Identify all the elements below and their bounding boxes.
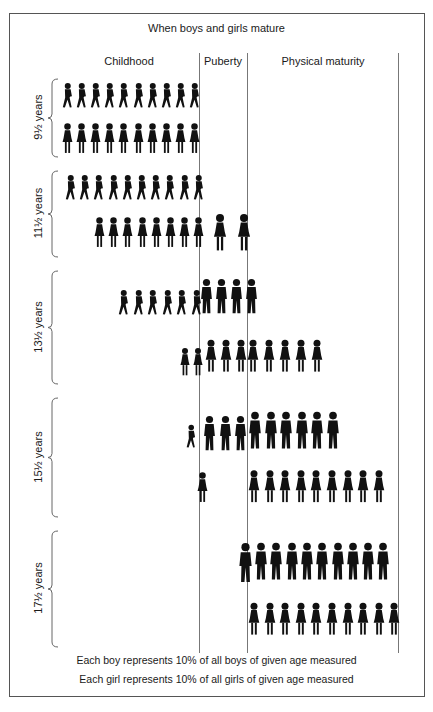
- girl-silhouette-icon: [164, 215, 177, 249]
- boy-silhouette-icon: [229, 273, 244, 319]
- girl-silhouette-icon: [204, 333, 218, 378]
- age-label: 9½ years: [32, 77, 44, 157]
- girl-silhouette-icon: [117, 121, 130, 155]
- girl-silhouette-icon: [247, 462, 261, 510]
- girl-silhouette-icon: [192, 345, 204, 378]
- girl-silhouette-icon: [179, 345, 191, 378]
- boy-silhouette-icon: [268, 537, 284, 585]
- chart-title: When boys and girls mature: [0, 22, 433, 34]
- boy-silhouette-icon: [149, 172, 162, 202]
- girl-silhouette-icon: [356, 462, 370, 510]
- girl-silhouette-icon: [219, 333, 233, 378]
- boy-silhouette-icon: [117, 287, 130, 317]
- girl-silhouette-icon: [107, 215, 120, 249]
- girl-silhouette-icon: [246, 332, 260, 379]
- girl-silhouette-icon: [263, 462, 277, 510]
- girl-silhouette-icon: [146, 121, 159, 155]
- boy-silhouette-icon: [161, 287, 174, 317]
- boy-silhouette-icon: [345, 537, 361, 585]
- boy-silhouette-icon: [132, 287, 145, 317]
- boy-silhouette-icon: [146, 80, 159, 110]
- girl-silhouette-icon: [372, 462, 386, 510]
- girl-silhouette-icon: [372, 595, 386, 642]
- boy-silhouette-icon: [107, 172, 120, 202]
- girl-silhouette-icon: [294, 462, 308, 510]
- boy-silhouette-icon: [103, 80, 116, 110]
- boy-silhouette-icon: [214, 273, 229, 319]
- age-label: 15½ years: [32, 417, 44, 497]
- boy-silhouette-icon: [185, 420, 197, 452]
- column-header-childhood: Childhood: [60, 55, 198, 67]
- boy-silhouette-icon: [244, 273, 259, 319]
- legend-boy-note: Each boy represents 10% of all boys of g…: [0, 654, 433, 666]
- girl-silhouette-icon: [236, 210, 252, 254]
- girl-silhouette-icon: [192, 215, 205, 249]
- girl-silhouette-icon: [294, 595, 308, 642]
- girl-silhouette-icon: [61, 121, 74, 155]
- girl-silhouette-icon: [278, 595, 292, 642]
- girl-silhouette-icon: [309, 595, 323, 642]
- curly-brace-icon: [47, 397, 59, 518]
- girl-silhouette-icon: [309, 462, 323, 510]
- boy-silhouette-icon: [178, 172, 191, 202]
- curly-brace-icon: [47, 78, 59, 158]
- girl-silhouette-icon: [310, 332, 324, 379]
- girl-silhouette-icon: [387, 595, 401, 642]
- girl-silhouette-icon: [89, 121, 102, 155]
- curly-brace-icon: [47, 170, 59, 258]
- girl-silhouette-icon: [325, 462, 339, 510]
- boy-silhouette-icon: [121, 172, 134, 202]
- boy-silhouette-icon: [360, 537, 376, 585]
- boy-silhouette-icon: [314, 537, 330, 585]
- boy-silhouette-icon: [294, 405, 310, 455]
- boy-silhouette-icon: [309, 405, 325, 455]
- boy-silhouette-icon: [218, 410, 233, 456]
- curly-brace-icon: [47, 270, 59, 385]
- column-header-puberty: Puberty: [199, 55, 247, 67]
- boy-silhouette-icon: [284, 537, 300, 585]
- age-label: 11½ years: [32, 173, 44, 253]
- boy-silhouette-icon: [92, 172, 105, 202]
- girl-silhouette-icon: [150, 215, 163, 249]
- boy-silhouette-icon: [117, 80, 130, 110]
- boy-silhouette-icon: [237, 540, 254, 585]
- boy-silhouette-icon: [61, 80, 74, 110]
- girl-silhouette-icon: [174, 121, 187, 155]
- girl-silhouette-icon: [278, 332, 292, 379]
- girl-silhouette-icon: [263, 595, 277, 642]
- column-header-physical-maturity: Physical maturity: [248, 55, 398, 67]
- boy-silhouette-icon: [253, 537, 269, 585]
- boy-silhouette-icon: [278, 405, 294, 455]
- boy-silhouette-icon: [64, 172, 77, 202]
- boy-silhouette-icon: [263, 405, 279, 455]
- boy-silhouette-icon: [89, 80, 102, 110]
- girl-silhouette-icon: [93, 215, 106, 249]
- girl-silhouette-icon: [356, 595, 370, 642]
- boy-silhouette-icon: [78, 172, 91, 202]
- boy-silhouette-icon: [174, 80, 187, 110]
- divider-right-edge: [398, 53, 399, 653]
- boy-silhouette-icon: [202, 410, 217, 456]
- girl-silhouette-icon: [103, 121, 116, 155]
- legend-girl-note: Each girl represents 10% of all girls of…: [0, 673, 433, 685]
- age-label: 13½ years: [32, 287, 44, 367]
- boy-silhouette-icon: [247, 405, 263, 455]
- girl-silhouette-icon: [121, 215, 134, 249]
- girl-silhouette-icon: [75, 121, 88, 155]
- girl-silhouette-icon: [136, 215, 149, 249]
- girl-silhouette-icon: [160, 121, 173, 155]
- boy-silhouette-icon: [135, 172, 148, 202]
- girl-silhouette-icon: [294, 332, 308, 379]
- age-label: 17½ years: [32, 548, 44, 628]
- boy-silhouette-icon: [132, 80, 145, 110]
- girl-silhouette-icon: [341, 595, 355, 642]
- girl-silhouette-icon: [196, 466, 209, 508]
- boy-silhouette-icon: [233, 410, 248, 456]
- girl-silhouette-icon: [341, 462, 355, 510]
- boy-silhouette-icon: [299, 537, 315, 585]
- boy-silhouette-icon: [188, 80, 201, 110]
- girl-silhouette-icon: [188, 121, 201, 155]
- girl-silhouette-icon: [262, 332, 276, 379]
- girl-silhouette-icon: [212, 210, 228, 254]
- boy-silhouette-icon: [160, 80, 173, 110]
